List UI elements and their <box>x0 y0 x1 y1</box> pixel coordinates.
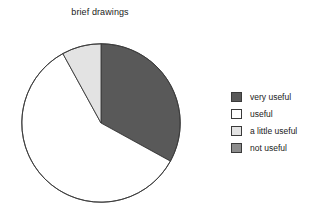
legend-item-not-useful[interactable]: not useful <box>231 139 327 156</box>
legend-label-very-useful: very useful <box>250 92 291 102</box>
legend-swatch-a-little-useful <box>231 126 242 136</box>
pie-slice-group <box>22 44 180 202</box>
legend-swatch-not-useful <box>231 143 242 153</box>
legend-label-useful: useful <box>250 109 273 119</box>
chart-page: brief drawings very useful useful a litt… <box>0 0 327 215</box>
legend-item-useful[interactable]: useful <box>231 105 327 122</box>
legend-swatch-very-useful <box>231 92 242 102</box>
pie-chart <box>20 42 182 204</box>
page-title: brief drawings <box>0 6 200 18</box>
legend-item-a-little-useful[interactable]: a little useful <box>231 122 327 139</box>
legend-item-very-useful[interactable]: very useful <box>231 88 327 105</box>
pie-chart-svg <box>20 42 182 204</box>
legend-label-not-useful: not useful <box>250 143 287 153</box>
legend: very useful useful a little useful not u… <box>231 88 327 156</box>
legend-swatch-useful <box>231 109 242 119</box>
legend-label-a-little-useful: a little useful <box>250 126 297 136</box>
